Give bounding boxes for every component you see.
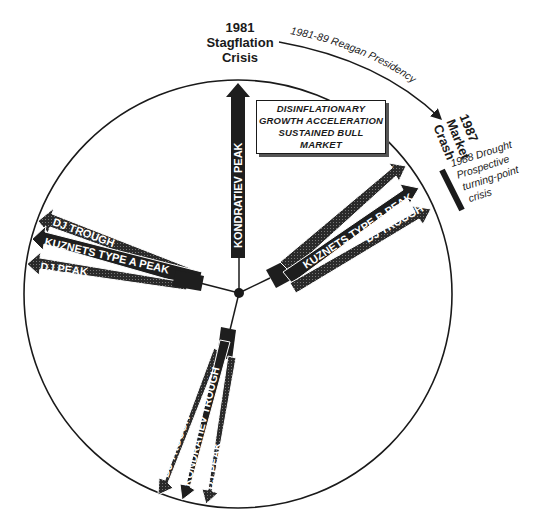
- reagan-presidency-label: 1981-89 Reagan Presidency: [290, 24, 419, 85]
- disinflationary-growth-box: DISINFLATIONARY GROWTH ACCELERATION SUST…: [256, 100, 386, 154]
- svg-text:DJ PEAK: DJ PEAK: [203, 441, 223, 490]
- stagflation-line2: Crisis: [222, 50, 258, 65]
- hub-dot: [234, 288, 244, 298]
- stagflation-year: 1981: [226, 20, 255, 35]
- arrow-group-bottom: DJ TROUGH KONDRATIEV TROUGH DJ PEAK: [158, 327, 236, 504]
- box-line-2: GROWTH ACCELERATION: [259, 115, 383, 127]
- box-line-4: MARKET: [300, 139, 342, 151]
- svg-text:DJ PEAK: DJ PEAK: [40, 260, 89, 278]
- arrow-kondratiev-peak: KONDRATIEV PEAK: [226, 83, 250, 258]
- box-line-1: DISINFLATIONARY: [277, 103, 366, 115]
- arrow-group-right: DJ PEAK KUZNETS TYPE B PEAK DJ TROUGH: [266, 159, 431, 293]
- cycle-diagram: 1981-89 Reagan Presidency 1981 Stagflati…: [0, 0, 539, 524]
- svg-text:KONDRATIEV PEAK: KONDRATIEV PEAK: [232, 142, 244, 248]
- spoke-bottom: [230, 293, 239, 330]
- spoke-left: [200, 283, 239, 293]
- stagflation-line1: Stagflation: [206, 35, 273, 50]
- box-line-3: SUSTAINED BULL: [279, 127, 364, 139]
- arrow-group-left: DJ TROUGH KUZNETS TYPE A PEAK DJ PEAK: [27, 208, 204, 291]
- arrow-right-kuznets-b-peak: KUZNETS TYPE B PEAK: [283, 184, 419, 283]
- spoke-right: [239, 278, 270, 293]
